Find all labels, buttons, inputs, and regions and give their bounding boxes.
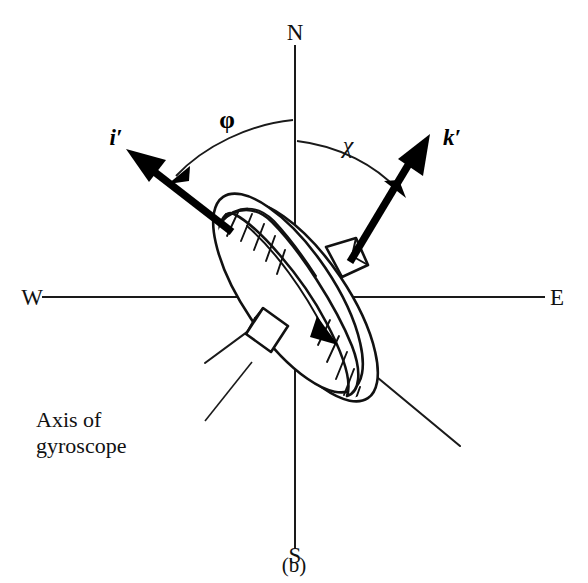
vector-i-prime xyxy=(126,149,232,232)
angle-arc-phi-head xyxy=(168,166,190,184)
figure-container: N S W E i′ k′ φ χ Axis of gyroscope (b) xyxy=(0,0,588,583)
compass-label-west: W xyxy=(21,285,43,310)
vector-k-prime-shaft xyxy=(350,162,410,262)
vector-label-k-prime: k′ xyxy=(443,125,461,150)
angle-label-chi: χ xyxy=(341,132,355,158)
gyroscope-diagram: N S W E i′ k′ φ χ Axis of gyroscope (b) xyxy=(0,0,588,583)
compass-label-north: N xyxy=(287,20,304,45)
gyro-axis-lower-right-segment xyxy=(372,373,460,446)
figure-caption: (b) xyxy=(282,553,307,577)
vector-k-prime xyxy=(350,134,430,262)
compass-label-east: E xyxy=(550,285,564,310)
axis-of-gyroscope-leader-line xyxy=(205,362,252,421)
axis-of-gyroscope-label-line2: gyroscope xyxy=(36,433,126,458)
axis-of-gyroscope-label-line1: Axis of xyxy=(36,407,102,432)
vector-label-i-prime: i′ xyxy=(110,125,123,150)
angle-label-phi: φ xyxy=(219,106,235,133)
